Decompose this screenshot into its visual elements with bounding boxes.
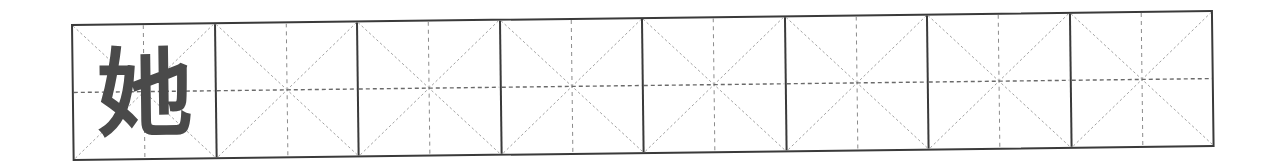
practice-character [500,19,642,154]
grid-cell-2[interactable] [216,22,360,157]
grid-cell-5[interactable] [643,17,787,152]
writing-grid: 她 [71,10,1215,161]
practice-character [785,16,927,151]
practice-character [358,21,500,156]
practice-sheet: 她 [71,10,1215,161]
practice-character [643,17,785,152]
grid-cell-8[interactable] [1070,12,1212,147]
grid-cell-4[interactable] [500,19,644,154]
practice-character [928,14,1070,149]
practice-character: 她 [73,24,215,159]
practice-character [1070,12,1212,147]
grid-cell-1: 她 [73,24,217,159]
practice-character [216,23,358,158]
grid-cell-3[interactable] [358,21,502,156]
grid-cell-6[interactable] [785,16,929,151]
grid-cell-7[interactable] [928,14,1072,149]
